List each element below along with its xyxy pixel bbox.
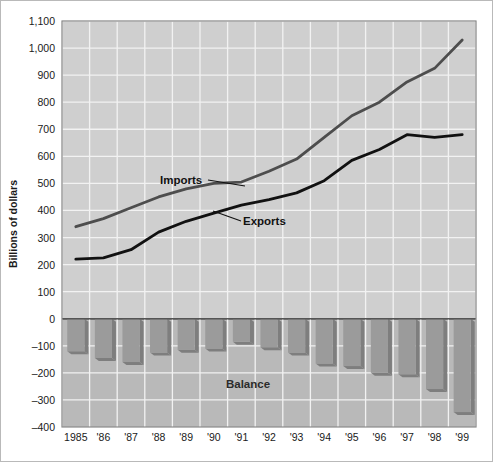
bar-balance (316, 319, 337, 367)
y-tick-label: –400 (32, 421, 56, 433)
bar-balance (371, 319, 392, 376)
bar-balance (343, 319, 364, 369)
x-tick-label: '93 (290, 431, 304, 443)
y-tick-label: 500 (37, 177, 55, 189)
x-tick-label: '94 (317, 431, 331, 443)
bar-shadow-right (250, 319, 254, 345)
y-tick-label: 1,100 (29, 15, 55, 27)
bar-face (316, 319, 333, 364)
bar-shadow-right (140, 319, 144, 365)
bar-shadow-right (388, 319, 392, 376)
x-tick-label: '99 (455, 431, 469, 443)
y-tick-label: –200 (32, 367, 56, 379)
bar-face (260, 319, 277, 347)
bar-balance (288, 319, 309, 356)
bar-face (122, 319, 139, 362)
imports-label: Imports (160, 174, 202, 186)
bar-face (233, 319, 250, 342)
y-tick-label: 400 (37, 204, 55, 216)
x-tick-label: '98 (428, 431, 442, 443)
y-tick-label: 300 (37, 232, 55, 244)
bar-face (426, 319, 443, 389)
y-tick-label: 200 (37, 259, 55, 271)
x-tick-label: 1985 (64, 431, 88, 443)
bar-shadow-right (333, 319, 337, 367)
y-tick-label: 600 (37, 150, 55, 162)
bar-face (288, 319, 305, 353)
bar-balance (205, 319, 226, 352)
bar-face (205, 319, 222, 349)
x-tick-label: '97 (400, 431, 414, 443)
x-tick-label: '90 (207, 431, 221, 443)
bar-shadow-right (278, 319, 282, 350)
y-tick-label: 900 (37, 69, 55, 81)
bar-shadow-right (471, 319, 475, 415)
y-tick-label: 0 (49, 313, 55, 325)
y-tick-label: –100 (32, 340, 56, 352)
y-tick-label: 100 (37, 286, 55, 298)
x-tick-label: '92 (262, 431, 276, 443)
bar-shadow-right (443, 319, 447, 392)
bar-shadow-right (360, 319, 364, 369)
bar-face (398, 319, 415, 374)
x-tick-label: '89 (179, 431, 193, 443)
balance-label: Balance (226, 378, 270, 390)
bar-face (371, 319, 388, 373)
chart-page: 1,1001,0009008007006005004003002001000–1… (0, 0, 493, 462)
bar-balance (233, 319, 254, 345)
bar-face (95, 319, 112, 358)
bar-shadow-right (195, 319, 199, 353)
bar-balance (426, 319, 447, 392)
y-tick-label: 1,000 (29, 42, 55, 54)
bar-shadow-right (84, 319, 88, 354)
bar-balance (398, 319, 419, 377)
bar-balance (122, 319, 143, 365)
bar-balance (150, 319, 171, 356)
exports-label: Exports (243, 215, 286, 227)
x-tick-label: '87 (124, 431, 138, 443)
bar-face (67, 319, 84, 351)
y-axis-title: Billions of dollars (7, 180, 19, 268)
bar-shadow-right (416, 319, 420, 377)
bar-balance (260, 319, 281, 350)
bar-shadow-right (112, 319, 116, 361)
bar-balance (178, 319, 199, 353)
y-tick-label: 700 (37, 123, 55, 135)
bar-balance (454, 319, 475, 415)
bar-shadow-right (305, 319, 309, 356)
trade-balance-chart: 1,1001,0009008007006005004003002001000–1… (0, 0, 493, 462)
bar-face (343, 319, 360, 366)
bar-shadow-right (222, 319, 226, 352)
bar-face (150, 319, 167, 353)
y-tick-label: –300 (32, 394, 56, 406)
bar-face (454, 319, 471, 412)
bar-balance (95, 319, 116, 361)
x-tick-label: '96 (373, 431, 387, 443)
bar-face (178, 319, 195, 350)
bar-balance (67, 319, 88, 354)
y-tick-label: 800 (37, 96, 55, 108)
x-tick-label: '86 (97, 431, 111, 443)
x-tick-label: '95 (345, 431, 359, 443)
x-tick-label: '88 (152, 431, 166, 443)
x-tick-label: '91 (235, 431, 249, 443)
bar-shadow-right (167, 319, 171, 356)
